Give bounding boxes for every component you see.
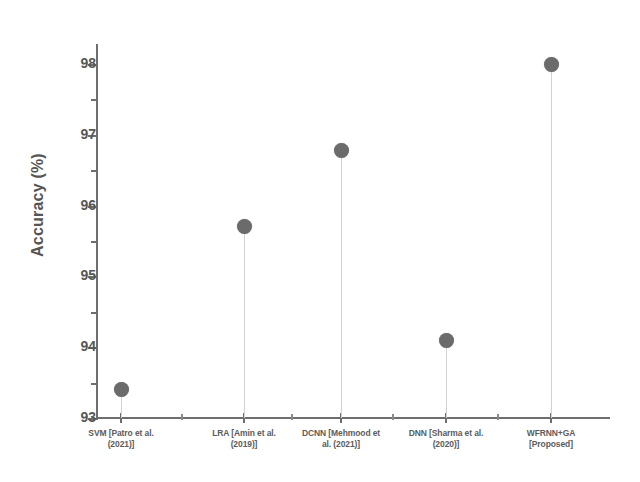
x-category-label: DCNN [Mehmood etal. (2021)] (282, 428, 400, 450)
data-point-marker (237, 219, 252, 234)
drop-line (446, 340, 447, 418)
y-tick-minor (91, 383, 97, 385)
x-category-label: DNN [Sharma et al.(2020)] (387, 428, 505, 450)
y-tick-minor (91, 99, 97, 101)
y-tick-label: 98 (56, 55, 96, 71)
data-point-marker (334, 143, 349, 158)
x-category-label: WFRNN+GA[Proposed] (492, 428, 610, 450)
y-tick-minor (91, 241, 97, 243)
x-category-label: SVM [Patro et al.(2021)] (62, 428, 180, 450)
x-category-label-line: (2020)] (387, 439, 505, 450)
drop-line (341, 150, 342, 418)
y-axis-title: Accuracy (%) (29, 105, 47, 305)
y-tick-label: 94 (56, 338, 96, 354)
x-tick-minor (497, 414, 499, 420)
x-tick-minor (392, 414, 394, 420)
y-tick-minor (91, 312, 97, 314)
data-point-marker (114, 382, 129, 397)
x-category-label-line: SVM [Patro et al. (62, 428, 180, 439)
x-tick-minor (181, 414, 183, 420)
x-category-label-line: al. (2021)] (282, 439, 400, 450)
x-axis-line (96, 417, 610, 419)
x-category-label-line: DCNN [Mehmood et (282, 428, 400, 439)
drop-line (551, 64, 552, 418)
x-category-label-line: (2021)] (62, 439, 180, 450)
drop-line (244, 227, 245, 418)
y-tick-label: 93 (56, 409, 96, 425)
y-tick-label: 97 (56, 126, 96, 142)
y-tick-label: 95 (56, 267, 96, 283)
x-tick-minor (291, 414, 293, 420)
accuracy-comparison-chart: Accuracy (%) 939495969798 SVM [Patro et … (0, 0, 640, 482)
x-category-label-line: DNN [Sharma et al. (387, 428, 505, 439)
y-tick-label: 96 (56, 197, 96, 213)
x-category-label-line: WFRNN+GA (492, 428, 610, 439)
y-tick-minor (91, 170, 97, 172)
data-point-marker (439, 333, 454, 348)
data-point-marker (544, 57, 559, 72)
x-category-label-line: [Proposed] (492, 439, 610, 450)
